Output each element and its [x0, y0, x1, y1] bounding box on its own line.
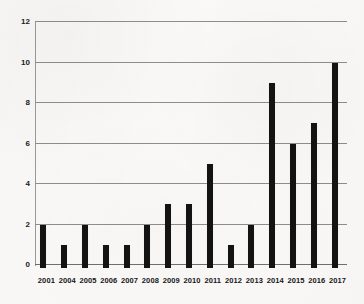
y-tick-label-12: 12: [6, 17, 30, 26]
bar-chart-figure: 024681012 200120042005200620072008200920…: [0, 0, 364, 304]
y-tick-label-8: 8: [6, 98, 30, 107]
x-tick-label-2017: 2017: [321, 276, 355, 285]
y-tick-label-4: 4: [6, 179, 30, 188]
y-tick-label-10: 10: [6, 58, 30, 67]
x-axis-tick-labels: 2001200420052006200720082009201020112012…: [35, 0, 347, 304]
y-tick-label-2: 2: [6, 220, 30, 229]
y-tick-label-0: 0: [6, 260, 30, 269]
y-tick-label-6: 6: [6, 139, 30, 148]
